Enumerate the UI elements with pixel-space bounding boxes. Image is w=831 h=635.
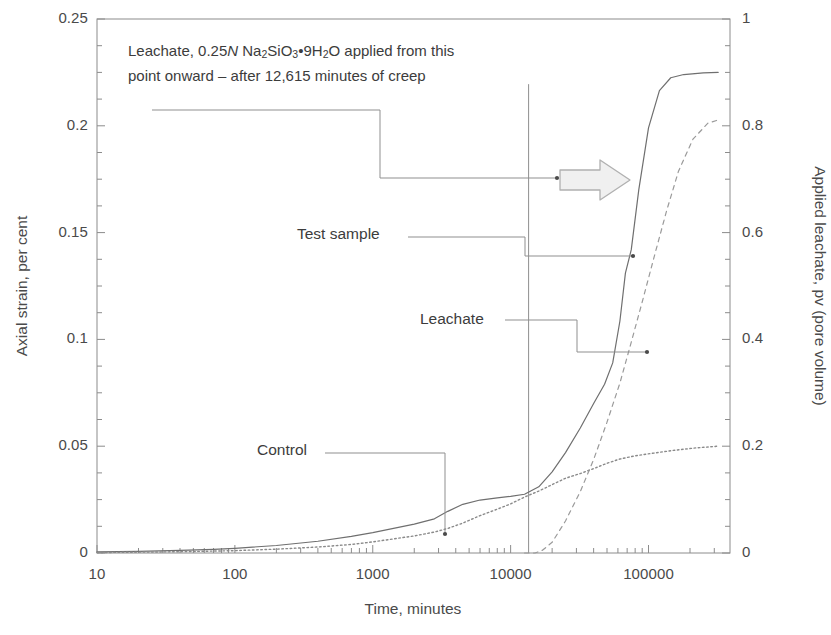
series-label-test-sample: Test sample [297, 225, 380, 243]
leader-leachate [505, 320, 646, 352]
note-o: O [328, 42, 340, 59]
note-9h: 9H [303, 42, 322, 59]
leachate-note-line-1: Leachate, 0.25N Na2SiO3•9H2O applied fro… [128, 40, 454, 65]
leader-dot-note [555, 176, 559, 180]
leader-dot-leachate [645, 350, 649, 354]
leader-dot-test-sample [631, 254, 635, 258]
note-na: Na [242, 42, 261, 59]
note-prefix: Leachate, 0.25 [128, 42, 227, 59]
leader-dot-control [443, 532, 447, 536]
series-label-control: Control [257, 441, 307, 459]
leader-note-to-arrow [152, 110, 556, 178]
note-normality-N: N [227, 42, 238, 59]
y-tick-right-0.8: 0.8 [742, 116, 802, 133]
y-tick-left-0: 0 [6, 543, 88, 560]
x-tick-10: 10 [37, 565, 157, 582]
y-axis-right-title-text: Applied leachate, pv (pore volume) [800, 156, 831, 416]
right-block-arrow-icon [560, 160, 630, 200]
y-tick-right-1: 1 [742, 9, 802, 26]
leachate-note-line-2: point onward – after 12,615 minutes of c… [128, 65, 454, 86]
x-tick-10000: 10000 [451, 565, 571, 582]
series-label-leachate: Leachate [420, 310, 484, 328]
y-axis-right-title: Applied leachate, pv (pore volume) [690, 266, 831, 306]
note-sio: SiO [267, 42, 292, 59]
series-path-test-sample [97, 72, 718, 552]
plot-frame [97, 19, 730, 553]
y-tick-right-0.2: 0.2 [742, 436, 802, 453]
axis-ticks [97, 19, 730, 553]
y-axis-left-title-text: Axial strain, per cent [2, 186, 42, 386]
x-axis-title: Time, minutes [365, 600, 462, 618]
y-tick-left-0.05: 0.05 [6, 436, 88, 453]
y-tick-left-0.2: 0.2 [6, 116, 88, 133]
block-arrow-shape [560, 160, 630, 200]
y-axis-left-title: Axial strain, per cent [0, 266, 122, 306]
y-tick-right-0.6: 0.6 [742, 223, 802, 240]
y-tick-right-0: 0 [742, 543, 802, 560]
x-tick-1000: 1000 [313, 565, 433, 582]
leader-test-sample [408, 237, 632, 256]
note-tail: applied from this [340, 42, 454, 59]
x-tick-100: 100 [175, 565, 295, 582]
y-tick-left-0.25: 0.25 [6, 9, 88, 26]
data-series [97, 72, 720, 553]
y-tick-right-0.4: 0.4 [742, 329, 802, 346]
leachate-note-annotation: Leachate, 0.25N Na2SiO3•9H2O applied fro… [128, 40, 454, 86]
series-path-control [97, 446, 718, 552]
x-tick-100000: 100000 [589, 565, 709, 582]
